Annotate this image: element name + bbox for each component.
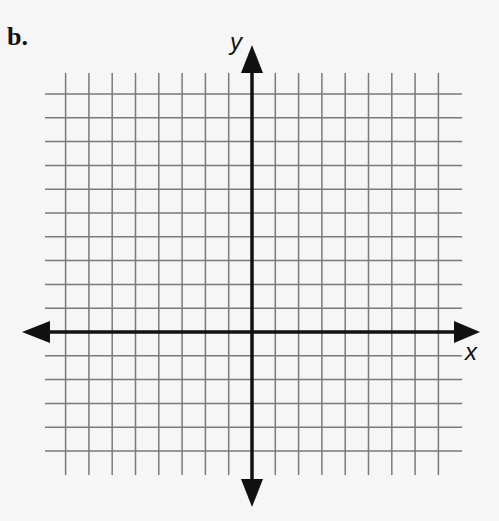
coordinate-plane xyxy=(0,0,499,521)
y-axis-up-arrow-icon xyxy=(241,45,263,73)
x-axis-left-arrow-icon xyxy=(22,321,50,343)
x-axis-right-arrow-icon xyxy=(454,321,480,343)
y-axis-down-arrow-icon xyxy=(241,479,263,507)
